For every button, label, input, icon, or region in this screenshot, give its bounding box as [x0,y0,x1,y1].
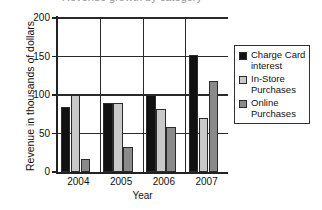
plot-area: 2004200520062007 [57,18,228,172]
bar-2005-series1 [113,103,123,172]
bar-chart-figure: Revenue growth by category Revenue in th… [0,0,322,210]
group-separator-2006 [143,18,144,172]
legend-swatch-icon-1 [239,76,247,84]
y-tick-200 [52,17,57,19]
x-tick-label-2005: 2005 [101,176,141,187]
legend-label-2: Online Purchases [251,98,306,119]
y-tick-label-200: 200 [22,13,50,23]
x-axis-label: Year [57,190,228,201]
x-axis-line [56,172,228,174]
bar-2005-series0 [103,103,113,172]
x-tick-label-2007: 2007 [187,176,227,187]
legend-swatch-icon-2 [239,100,247,108]
legend: Charge Card interestIn-Store PurchasesOn… [234,45,310,124]
y-tick-100 [52,94,57,96]
legend-item-0: Charge Card interest [239,50,306,71]
y-tick-label-50: 50 [22,129,50,139]
bar-2007-series0 [189,55,199,172]
bar-2007-series2 [209,81,219,172]
legend-label-1: In-Store Purchases [251,74,306,95]
bar-2007-series1 [199,118,209,172]
chart-title-text: Revenue growth by category [62,0,202,3]
y-tick-50 [52,133,57,135]
bar-2004-series2 [81,159,91,172]
bar-2006-series2 [166,127,176,172]
legend-swatch-icon-0 [239,52,247,60]
bar-2006-series0 [146,95,156,172]
y-tick-0 [52,171,57,173]
y-tick-label-100: 100 [22,90,50,100]
y-tick-150 [52,56,57,58]
legend-label-0: Charge Card interest [251,50,306,71]
group-separator-2005 [100,18,101,172]
bar-2004-series0 [61,107,71,172]
x-tick-label-2004: 2004 [58,176,98,187]
y-tick-label-150: 150 [22,52,50,62]
legend-item-2: Online Purchases [239,98,306,119]
x-tick-label-2006: 2006 [144,176,184,187]
chart-title-cropped: Revenue growth by category [0,0,322,7]
legend-item-1: In-Store Purchases [239,74,306,95]
y-tick-label-0: 0 [22,167,50,177]
group-separator-2007 [185,18,186,172]
bar-2005-series2 [123,147,133,172]
bar-2006-series1 [156,109,166,172]
bar-2004-series1 [71,95,81,172]
